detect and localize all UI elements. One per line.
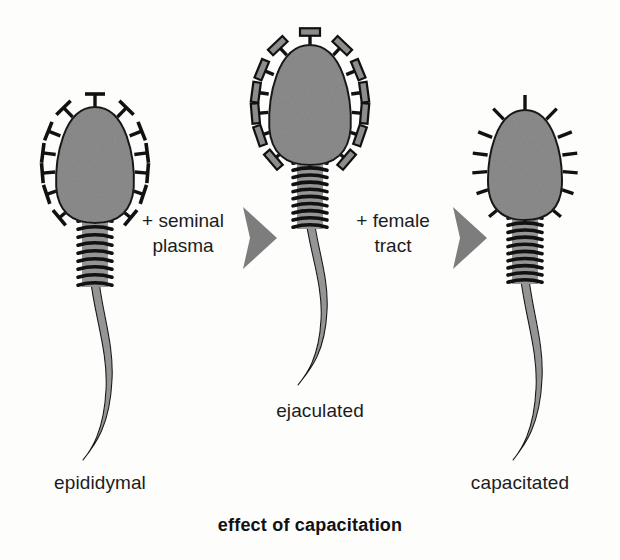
- sperm-head: [488, 110, 562, 220]
- sperm-head: [56, 107, 134, 223]
- receptor-cap-bare: [42, 163, 44, 183]
- receptor-stem: [478, 132, 492, 138]
- sperm-cells-group: [42, 28, 578, 460]
- transition-line-2: tract: [338, 233, 448, 258]
- receptor-cap-coated: [300, 28, 320, 36]
- receptor-stem: [546, 109, 556, 120]
- receptor-cap-bare: [146, 143, 149, 163]
- transition-arrow-seminal-plasma: [243, 207, 277, 269]
- receptor-stem: [563, 172, 578, 173]
- stage-label-capacitated: capacitated: [420, 472, 620, 494]
- transition-label-female-tract: + female tract: [338, 208, 448, 258]
- receptor-stem: [117, 108, 126, 117]
- receptor-cap-coated: [353, 125, 367, 146]
- receptor-cap-coated: [360, 103, 369, 124]
- receptor-cap-coated: [254, 59, 269, 80]
- receptor-cap-coated: [251, 103, 260, 124]
- stage-label-epididymal: epididymal: [0, 472, 200, 494]
- receptor-cap-coated: [251, 82, 261, 103]
- receptor-stem: [42, 172, 55, 173]
- capacitation-figure: epididymal ejaculated capacitated + semi…: [0, 0, 620, 560]
- receptor-cap-coated: [351, 59, 366, 80]
- transition-arrow-female-tract: [453, 207, 487, 269]
- transition-line-1: + seminal: [128, 208, 238, 233]
- transition-line-1: + female: [338, 208, 448, 233]
- receptor-cap-coated: [253, 125, 267, 146]
- receptor-cap-bare: [147, 163, 149, 183]
- receptor-stem: [130, 131, 142, 136]
- receptor-stem: [43, 153, 56, 155]
- receptor-cap-bare: [42, 143, 45, 163]
- stage-label-ejaculated: ejaculated: [220, 400, 420, 422]
- receptor-stem: [135, 172, 148, 173]
- receptor-stem: [48, 131, 60, 136]
- receptor-stem: [493, 109, 503, 120]
- receptor-cap-coated: [359, 82, 369, 103]
- receptor-stem: [134, 153, 147, 155]
- sperm-cell-ejaculated: [251, 28, 369, 385]
- figure-caption: effect of capacitation: [0, 515, 620, 536]
- sperm-cell-capacitated: [472, 95, 577, 460]
- receptor-stem: [558, 132, 572, 138]
- transition-label-seminal-plasma: + seminal plasma: [128, 208, 238, 258]
- receptor-stem: [472, 172, 487, 173]
- receptor-stem: [473, 153, 488, 155]
- receptor-stem: [562, 153, 577, 155]
- sperm-head: [269, 45, 351, 165]
- transition-line-2: plasma: [128, 233, 238, 258]
- sperm-cell-epididymal: [42, 94, 149, 460]
- receptor-stem: [63, 108, 72, 117]
